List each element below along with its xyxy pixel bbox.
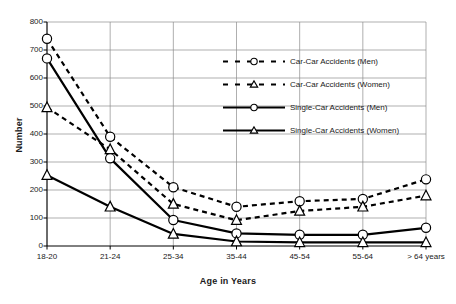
y-tick-label: 700: [30, 46, 43, 54]
y-axis-title: Number: [14, 95, 24, 175]
x-tick-label: > 64 years: [407, 252, 445, 261]
chart-legend: Car-Car Accidents (Men)Car-Car Accidents…: [223, 50, 399, 142]
data-point-marker: [169, 183, 178, 192]
legend-item-label: Single-Car Accidents (Women): [290, 126, 399, 135]
y-tick-label: 800: [30, 18, 43, 26]
legend-item-label: Car-Car Accidents (Men): [290, 57, 378, 66]
x-tick-label: 21-24: [100, 252, 120, 261]
data-point-marker: [421, 223, 430, 232]
legend-item-label: Single-Car Accidents (Men): [290, 103, 387, 112]
y-tick-label: 500: [30, 102, 43, 110]
legend-item-1[interactable]: Car-Car Accidents (Women): [223, 73, 399, 96]
legend-item-3[interactable]: Single-Car Accidents (Women): [223, 119, 399, 142]
data-point-marker: [105, 144, 115, 154]
legend-key-icon: [223, 102, 285, 113]
y-tick-label: 0: [39, 242, 43, 250]
data-point-marker: [232, 202, 241, 211]
x-axis-title: Age in Years: [0, 276, 456, 286]
data-point-marker: [421, 190, 431, 200]
x-tick-label: 25-34: [163, 252, 183, 261]
x-tick-label: 35-44: [226, 252, 246, 261]
legend-key-icon: [223, 79, 285, 90]
legend-item-label: Car-Car Accidents (Women): [290, 80, 390, 89]
data-point-marker: [106, 132, 115, 141]
data-point-marker: [42, 54, 51, 63]
legend-key-icon: [223, 56, 285, 67]
data-point-marker: [42, 102, 52, 112]
y-tick-label: 400: [30, 130, 43, 138]
legend-item-0[interactable]: Car-Car Accidents (Men): [223, 50, 399, 73]
data-point-marker: [106, 154, 115, 163]
y-tick-label: 100: [30, 214, 43, 222]
line-chart-figure: Number Age in Years 01002003004005006007…: [0, 0, 456, 304]
x-tick-label: 18-20: [37, 252, 57, 261]
data-point-marker: [169, 215, 178, 224]
legend-item-2[interactable]: Single-Car Accidents (Men): [223, 96, 399, 119]
y-tick-label: 600: [30, 74, 43, 82]
y-tick-label: 300: [30, 158, 43, 166]
data-point-marker: [42, 170, 52, 180]
x-tick-label: 55-64: [353, 252, 373, 261]
data-point-marker: [421, 175, 430, 184]
legend-key-icon: [223, 125, 285, 136]
x-tick-label: 45-54: [289, 252, 309, 261]
y-tick-label: 200: [30, 186, 43, 194]
plot-area: 0100200300400500600700800 18-2021-2425-3…: [47, 22, 426, 246]
data-point-marker: [42, 34, 51, 43]
